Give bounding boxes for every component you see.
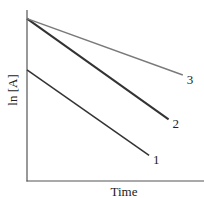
series-line-3	[27, 19, 183, 75]
series-label-2: 2	[173, 116, 180, 131]
series-line-2	[27, 19, 169, 120]
y-axis-label: ln [A]	[5, 74, 20, 105]
series-label-1: 1	[153, 152, 160, 167]
x-axis-label: Time	[111, 184, 138, 198]
chart: 123 Time ln [A]	[0, 0, 204, 198]
series-line-1	[27, 70, 149, 156]
series-label-3: 3	[187, 72, 194, 87]
